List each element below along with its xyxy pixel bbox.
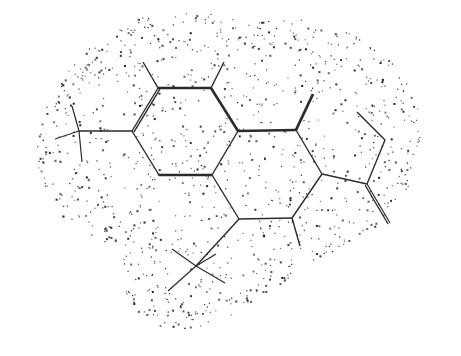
surface-dot [135,294,136,295]
surface-dot [186,129,187,130]
surface-dot [258,285,259,286]
surface-dot [79,187,81,189]
surface-dot [239,135,241,137]
surface-dot [172,310,174,312]
surface-dot [283,149,284,150]
surface-dot [312,194,313,195]
surface-dot [73,103,75,105]
surface-dot [227,247,228,248]
surface-dot [201,78,202,79]
surface-dot [96,57,98,59]
surface-dot [372,158,373,159]
surface-dot [265,187,266,188]
surface-dot [173,97,175,99]
surface-dot [144,311,145,312]
surface-dot [151,256,152,257]
surface-dot [246,297,248,299]
surface-dot [181,230,182,231]
surface-dot [144,27,145,28]
surface-dot [46,107,47,108]
surface-dot [257,35,258,36]
surface-dot [152,232,154,234]
surface-dot [171,56,172,57]
surface-dot [190,142,192,144]
surface-dot [334,226,335,227]
surface-dot [416,120,417,121]
surface-dot [403,91,404,92]
surface-dot [298,40,299,41]
surface-dot [204,166,206,168]
surface-dot [311,90,312,91]
surface-dot [247,301,248,302]
surface-dot [203,79,205,81]
surface-dot [333,155,335,157]
surface-dot [361,152,362,153]
surface-dot [140,194,141,195]
surface-dot [353,43,354,44]
surface-dot [359,39,360,40]
surface-dot [373,58,374,59]
surface-dot [201,165,202,166]
surface-dot [148,309,150,311]
surface-dot [255,140,257,142]
surface-dot [253,114,254,115]
surface-dot [168,302,169,303]
surface-dot [169,179,170,180]
surface-dot [324,136,325,137]
surface-dot [281,277,283,279]
surface-dot [161,151,162,152]
bond-single [296,94,313,130]
surface-dot [202,130,204,132]
surface-dot [42,158,43,159]
surface-dot [313,101,314,102]
surface-dot [253,271,255,273]
surface-dot [180,306,182,308]
surface-dot [229,299,230,300]
surface-dot [98,77,99,78]
surface-dot [379,111,380,112]
surface-dot [167,34,168,35]
surface-dot [93,112,94,113]
surface-dot [92,225,93,226]
surface-dot [133,241,134,242]
surface-dot [382,79,384,81]
surface-dot [152,103,153,104]
surface-dot [393,126,394,127]
surface-dot [223,131,225,133]
surface-dot [231,88,232,89]
surface-dot [149,165,150,166]
surface-dot [276,28,277,29]
surface-dot [40,158,42,160]
surface-dot [269,228,270,229]
surface-dot [366,77,367,78]
surface-dot [211,228,213,230]
surface-dot [319,91,320,92]
surface-dot [302,138,303,139]
surface-dot [207,292,208,293]
surface-dot [318,119,319,120]
surface-dot [329,228,331,230]
surface-dot [246,295,247,296]
surface-dot [185,328,186,329]
bond-single [132,131,159,175]
surface-dot [67,95,68,96]
surface-dot [152,179,153,180]
surface-dot [284,279,286,281]
surface-dot [312,88,313,89]
surface-dot [99,120,101,122]
surface-dot [360,145,361,146]
surface-dot [266,83,267,84]
surface-dot [388,117,389,118]
surface-dot [186,160,187,161]
surface-dot [131,230,132,231]
surface-dot [320,30,322,32]
surface-dot [229,141,230,142]
surface-dot [313,32,314,33]
surface-dot [82,72,83,73]
surface-dot [274,104,275,105]
surface-dot [191,315,192,316]
surface-dot [45,151,47,153]
surface-dot [299,49,301,51]
surface-dot [295,87,296,88]
surface-dot [59,198,60,199]
